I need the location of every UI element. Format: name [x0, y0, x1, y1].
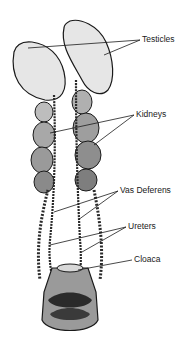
right-testicle	[63, 20, 112, 93]
label-ureters: Ureters	[128, 221, 156, 231]
cloaca	[42, 264, 98, 331]
left-testicle	[13, 42, 65, 100]
label-vas-deferens: Vas Deferens	[120, 185, 171, 195]
left-kidney	[31, 102, 55, 193]
label-testicles: Testicles	[142, 34, 175, 44]
label-cloaca: Cloaca	[134, 254, 160, 264]
label-kidneys: Kidneys	[136, 109, 166, 119]
anatomy-illustration	[0, 0, 194, 342]
